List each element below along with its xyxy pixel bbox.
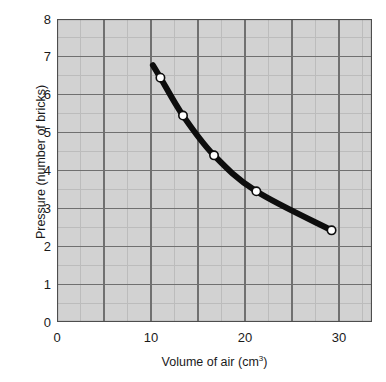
x-axis-tick-labels: 0102030: [0, 0, 386, 382]
x-axis-label-superscript: 3: [259, 354, 263, 363]
x-tick-label: 30: [319, 331, 359, 344]
x-tick-label: 0: [37, 331, 77, 344]
x-tick-label: 10: [131, 331, 171, 344]
x-tick-label: 20: [225, 331, 265, 344]
y-axis-label: Pressure (number of bricks): [34, 47, 48, 277]
x-axis-label: Volume of air (cm3): [57, 355, 372, 369]
chart-figure: 012345678 0102030 Volume of air (cm3) Pr…: [0, 0, 386, 382]
